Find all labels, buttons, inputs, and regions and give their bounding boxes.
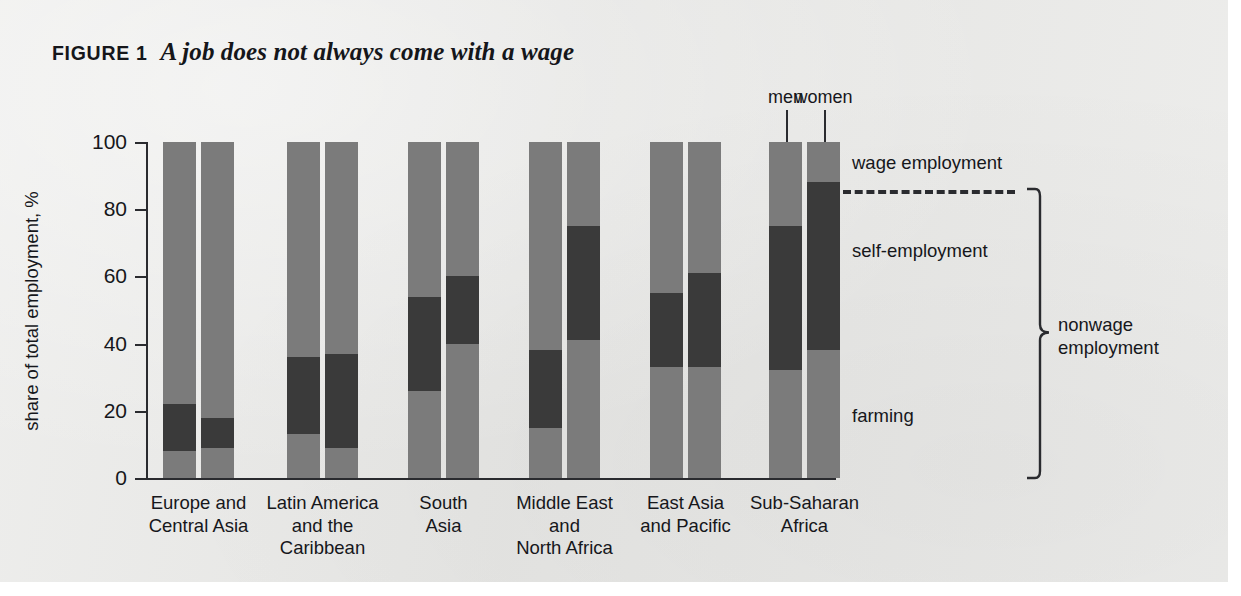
x-axis-line	[146, 478, 836, 480]
bar-segment-farming	[567, 340, 600, 478]
legend-label-nonwage-employment: nonwageemployment	[1058, 313, 1159, 359]
x-axis-category-label-line: North Africa	[470, 537, 660, 560]
y-axis-tick-label: 80	[67, 198, 127, 219]
bar-segment-self-employment	[287, 357, 320, 434]
bar-sub-saharan-africa-women[interactable]	[807, 142, 840, 478]
bar-latin-america-and-the-caribbean-men[interactable]	[287, 142, 320, 478]
bar-segment-wage-employment	[529, 142, 562, 350]
bar-segment-wage-employment	[650, 142, 683, 293]
legend-label-wage-employment: wage employment	[852, 152, 1002, 174]
bar-segment-farming	[408, 391, 441, 478]
bar-segment-farming	[201, 448, 234, 478]
bar-segment-self-employment	[807, 182, 840, 350]
y-axis-tick	[135, 344, 146, 346]
figure-panel: FIGURE 1 A job does not always come with…	[0, 0, 1228, 582]
bar-segment-wage-employment	[325, 142, 358, 354]
bar-segment-farming	[287, 434, 320, 478]
bar-segment-wage-employment	[807, 142, 840, 182]
bar-middle-east-and-north-africa-women[interactable]	[567, 142, 600, 478]
x-axis-category-label-line: Sub-Saharan	[710, 492, 900, 515]
bar-segment-wage-employment	[567, 142, 600, 226]
legend-label-self-employment: self-employment	[852, 240, 988, 262]
series-label-women: women	[764, 87, 884, 108]
bar-segment-farming	[446, 344, 479, 478]
bar-segment-self-employment	[163, 404, 196, 451]
bar-segment-self-employment	[408, 297, 441, 391]
series-leader-line-men	[786, 110, 788, 142]
x-axis-category-label-line: Africa	[710, 515, 900, 538]
x-axis-category-label-line: Caribbean	[228, 537, 418, 560]
bar-middle-east-and-north-africa-men[interactable]	[529, 142, 562, 478]
legend-label-farming: farming	[852, 405, 914, 427]
bar-segment-wage-employment	[688, 142, 721, 273]
bar-segment-self-employment	[201, 418, 234, 448]
bar-segment-farming	[807, 350, 840, 478]
bar-segment-self-employment	[567, 226, 600, 340]
bar-segment-self-employment	[529, 350, 562, 427]
y-axis-tick	[135, 276, 146, 278]
figure-title: A job does not always come with a wage	[161, 38, 575, 66]
bar-europe-and-central-asia-women[interactable]	[201, 142, 234, 478]
y-axis-tick-label: 40	[67, 333, 127, 354]
bar-segment-farming	[688, 367, 721, 478]
y-axis-title: share of total employment, %	[21, 181, 43, 441]
y-axis-tick-label: 100	[67, 131, 127, 152]
bar-segment-wage-employment	[446, 142, 479, 276]
bar-segment-self-employment	[446, 276, 479, 343]
bar-segment-farming	[325, 448, 358, 478]
y-axis-tick	[135, 411, 146, 413]
bar-segment-self-employment	[688, 273, 721, 367]
chart-plot-area: share of total employment, % 02040608010…	[0, 0, 1228, 582]
legend-label-nonwage-line: employment	[1058, 336, 1159, 359]
bar-east-asia-and-pacific-women[interactable]	[688, 142, 721, 478]
figure-title-row: FIGURE 1 A job does not always come with…	[52, 38, 574, 66]
wage-nonwage-divider	[843, 190, 1015, 194]
bar-south-asia-women[interactable]	[446, 142, 479, 478]
bar-segment-farming	[769, 370, 802, 478]
y-axis-tick-label: 0	[67, 467, 127, 488]
y-axis-line	[146, 142, 148, 480]
bar-segment-wage-employment	[408, 142, 441, 297]
figure-number-label: FIGURE 1	[52, 42, 148, 65]
bar-segment-farming	[650, 367, 683, 478]
bar-segment-self-employment	[650, 293, 683, 367]
y-axis-tick	[135, 209, 146, 211]
y-axis-tick	[135, 142, 146, 144]
bar-east-asia-and-pacific-men[interactable]	[650, 142, 683, 478]
legend-label-nonwage-line: nonwage	[1058, 313, 1159, 336]
bar-segment-farming	[163, 451, 196, 478]
bar-latin-america-and-the-caribbean-women[interactable]	[325, 142, 358, 478]
bar-segment-wage-employment	[769, 142, 802, 226]
bar-europe-and-central-asia-men[interactable]	[163, 142, 196, 478]
bar-segment-farming	[529, 428, 562, 478]
x-axis-category-label: Sub-SaharanAfrica	[710, 492, 900, 537]
bar-segment-wage-employment	[287, 142, 320, 357]
bar-south-asia-men[interactable]	[408, 142, 441, 478]
bar-segment-wage-employment	[201, 142, 234, 418]
y-axis-tick-label: 20	[67, 400, 127, 421]
series-leader-line-women	[824, 110, 826, 142]
y-axis-tick-label: 60	[67, 265, 127, 286]
bar-segment-wage-employment	[163, 142, 196, 404]
nonwage-bracket	[1025, 187, 1059, 482]
bar-segment-self-employment	[325, 354, 358, 448]
y-axis-tick	[135, 478, 146, 480]
bar-sub-saharan-africa-men[interactable]	[769, 142, 802, 478]
bar-segment-self-employment	[769, 226, 802, 370]
